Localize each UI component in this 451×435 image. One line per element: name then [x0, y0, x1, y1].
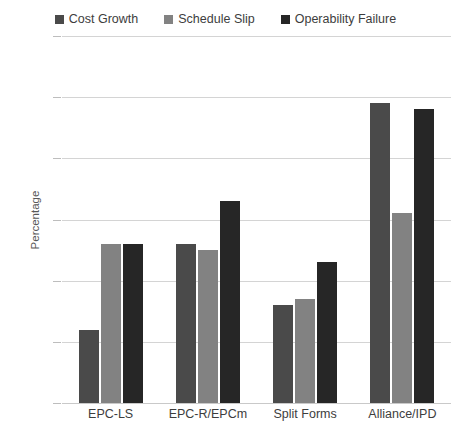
bar-group [273, 36, 337, 403]
y-tick-mark [53, 403, 61, 404]
bar [414, 109, 434, 403]
bars-layer [62, 36, 451, 403]
bar [220, 201, 240, 403]
legend-swatch-icon [281, 15, 290, 24]
bar-group [79, 36, 143, 403]
legend-label: Cost Growth [69, 13, 138, 26]
plot-area [62, 36, 451, 403]
y-tick-mark [53, 342, 61, 343]
chart-legend: Cost Growth Schedule Slip Operability Fa… [0, 8, 451, 30]
bar-group [176, 36, 240, 403]
y-tick-mark [53, 220, 61, 221]
bar [101, 244, 121, 403]
legend-label: Operability Failure [295, 13, 396, 26]
y-tick-mark [53, 158, 61, 159]
x-tick-label: Alliance/IPD [354, 408, 451, 421]
legend-item-schedule-slip: Schedule Slip [164, 13, 254, 26]
x-tick-label: EPC-LS [62, 408, 159, 421]
bar [79, 330, 99, 403]
legend-label: Schedule Slip [178, 13, 254, 26]
legend-swatch-icon [55, 15, 64, 24]
legend-item-operability-failure: Operability Failure [281, 13, 396, 26]
x-tick-label: Split Forms [257, 408, 354, 421]
bar-group [370, 36, 434, 403]
y-tick-mark [53, 97, 61, 98]
y-tick-mark [53, 281, 61, 282]
x-axis-labels: EPC-LSEPC-R/EPCmSplit FormsAlliance/IPD [62, 408, 451, 428]
bar [295, 299, 315, 403]
x-axis-line [62, 403, 451, 404]
bar [176, 244, 196, 403]
bar [370, 103, 390, 403]
x-tick-label: EPC-R/EPCm [159, 408, 256, 421]
bar [392, 213, 412, 403]
y-tick-mark [53, 36, 61, 37]
bar [198, 250, 218, 403]
bar [317, 262, 337, 403]
bar-chart: Cost Growth Schedule Slip Operability Fa… [0, 0, 451, 435]
bar [273, 305, 293, 403]
legend-swatch-icon [164, 15, 173, 24]
bar [123, 244, 143, 403]
legend-item-cost-growth: Cost Growth [55, 13, 138, 26]
